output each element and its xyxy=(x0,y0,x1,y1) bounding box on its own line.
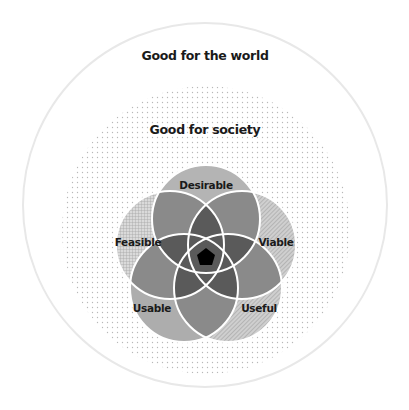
label-good-for-the-world: Good for the world xyxy=(141,48,268,63)
label-viable: Viable xyxy=(258,236,293,248)
label-desirable: Desirable xyxy=(179,179,233,191)
label-useful: Useful xyxy=(241,302,277,314)
label-good-for-society: Good for society xyxy=(150,122,261,137)
label-usable: Usable xyxy=(133,302,171,314)
label-feasible: Feasible xyxy=(115,236,162,248)
venn-diagram: Good for the world Good for society Desi… xyxy=(0,0,409,410)
